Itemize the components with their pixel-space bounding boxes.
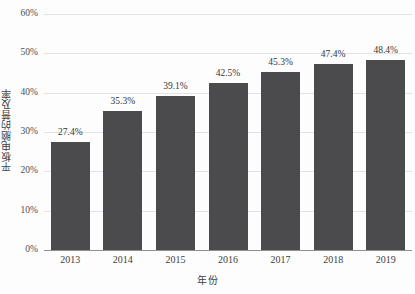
bar-2019[interactable] (366, 60, 405, 250)
x-axis-tick-label: 2018 (305, 254, 361, 266)
x-axis-tick-label: 2015 (147, 254, 203, 266)
x-axis-tick-labels: 2013201420152016201720182019 (44, 254, 412, 270)
x-axis-tick-label: 2017 (253, 254, 309, 266)
y-axis-tick-label: 40% (21, 88, 38, 98)
bar-2017[interactable] (261, 72, 300, 250)
y-axis-tick-label: 10% (21, 206, 38, 216)
bar-2018[interactable] (314, 64, 353, 250)
x-axis-title: 年份 (0, 272, 415, 287)
axis-baseline (44, 250, 412, 251)
bar-value-label: 42.5% (200, 69, 256, 79)
y-axis-tick-label: 60% (21, 9, 38, 19)
y-axis-tick-label: 0% (25, 245, 38, 255)
bar-value-label: 35.3% (95, 97, 151, 107)
y-axis-tick-label: 30% (21, 127, 38, 137)
x-axis-tick-label: 2014 (95, 254, 151, 266)
bar-2013[interactable] (51, 142, 90, 250)
bar-2014[interactable] (103, 111, 142, 250)
bar-value-label: 47.4% (305, 50, 361, 60)
bar-value-label: 39.1% (147, 82, 203, 92)
plot-area: 27.4%35.3%39.1%42.5%45.3%47.4%48.4% (44, 14, 412, 250)
gridline (44, 14, 412, 15)
x-axis-tick-label: 2019 (358, 254, 414, 266)
bar-2015[interactable] (156, 96, 195, 250)
bar-value-label: 27.4% (42, 128, 98, 138)
bar-chart: 平板电脑的普及率 0%10%20%30%40%50%60% 27.4%35.3%… (0, 0, 415, 294)
y-axis-tick-label: 20% (21, 167, 38, 177)
x-axis-tick-label: 2016 (200, 254, 256, 266)
bar-value-label: 45.3% (253, 58, 309, 68)
bar-value-label: 48.4% (358, 46, 414, 56)
y-axis-tick-label: 50% (21, 49, 38, 59)
y-axis-tick-labels: 0%10%20%30%40%50%60% (0, 0, 44, 264)
bar-2016[interactable] (209, 83, 248, 250)
x-axis-tick-label: 2013 (42, 254, 98, 266)
